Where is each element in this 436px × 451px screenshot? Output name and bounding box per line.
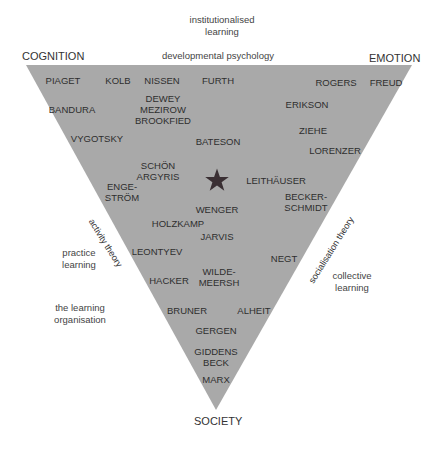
- note-institutionalised-learning: institutionalised learning: [190, 14, 255, 38]
- corner-label-emotion: EMOTION: [369, 52, 420, 64]
- theorist-label: NEGT: [271, 253, 297, 264]
- edge-label-developmental-psychology: developmental psychology: [162, 50, 274, 62]
- theorist-label: SCHÖN ARGYRIS: [137, 160, 180, 182]
- theorist-label: JARVIS: [200, 231, 233, 242]
- theorist-label: BECKER- SCHMIDT: [284, 191, 327, 213]
- corner-label-cognition: COGNITION: [22, 50, 84, 62]
- theorist-label: KOLB: [105, 75, 130, 86]
- theorist-label: HACKER: [149, 275, 189, 286]
- theorist-label: BATESON: [196, 136, 241, 147]
- theorist-label: WENGER: [196, 204, 239, 215]
- corner-label-society: SOCIETY: [194, 415, 242, 427]
- theorist-label: LEITHÄUSER: [246, 175, 306, 186]
- theorist-label: LORENZER: [309, 145, 361, 156]
- theorist-label: PIAGET: [46, 75, 81, 86]
- theorist-label: WILDE- MEERSH: [199, 266, 240, 288]
- theorist-label: GERGEN: [195, 325, 236, 336]
- theorist-label: FREUD: [370, 77, 403, 88]
- theorist-label: ENGE- STRÖM: [105, 181, 139, 203]
- theorist-label: BANDURA: [49, 104, 95, 115]
- theorist-label: DEWEY MEZIROW BROOKFIED: [135, 93, 191, 126]
- theorist-label: ROGERS: [315, 77, 356, 88]
- theorist-label: FURTH: [202, 75, 234, 86]
- theorist-label: LEONTYEV: [132, 246, 183, 257]
- theorist-label: GIDDENS BECK: [194, 346, 237, 368]
- note-collective-learning: collective learning: [332, 270, 371, 294]
- theorist-label: BRUNER: [167, 305, 207, 316]
- note-learning-organisation: the learning organisation: [54, 302, 106, 326]
- theorist-label: HOLZKAMP: [152, 218, 204, 229]
- theorist-label: ALHEIT: [237, 305, 270, 316]
- learning-triangle-diagram: COGNITION EMOTION SOCIETY institutionali…: [0, 0, 436, 451]
- theorist-label: ZIEHE: [299, 125, 327, 136]
- note-practice-learning: practice learning: [62, 247, 96, 271]
- theorist-label: VYGOTSKY: [71, 133, 123, 144]
- theorist-label: MARX: [202, 374, 229, 385]
- theorist-label: ERIKSON: [286, 99, 329, 110]
- theorist-label: NISSEN: [144, 75, 179, 86]
